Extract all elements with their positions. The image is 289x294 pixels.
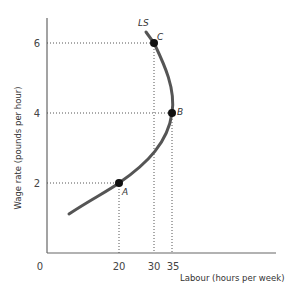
y-axis-label: Wage rate (pounds per hour) <box>13 86 23 209</box>
guide-lines <box>47 43 172 253</box>
labour-supply-chart: A B C LS 6 4 2 0 20 30 35 Labour (hours … <box>0 0 289 294</box>
origin-label: 0 <box>37 261 43 272</box>
point-a-label: A <box>121 187 128 197</box>
point-c-label: C <box>157 32 164 42</box>
x-tick-30: 30 <box>148 261 161 272</box>
point-b-label: B <box>177 107 183 117</box>
ls-curve-label: LS <box>138 18 149 28</box>
point-a <box>115 179 123 187</box>
x-axis-label: Labour (hours per week) <box>180 273 285 283</box>
x-tick-35: 35 <box>167 261 180 272</box>
x-tick-20: 20 <box>113 261 126 272</box>
y-tick-6: 6 <box>34 38 40 49</box>
ls-curve <box>69 32 173 214</box>
y-tick-2: 2 <box>34 178 40 189</box>
y-tick-4: 4 <box>34 108 40 119</box>
point-b <box>168 109 176 117</box>
